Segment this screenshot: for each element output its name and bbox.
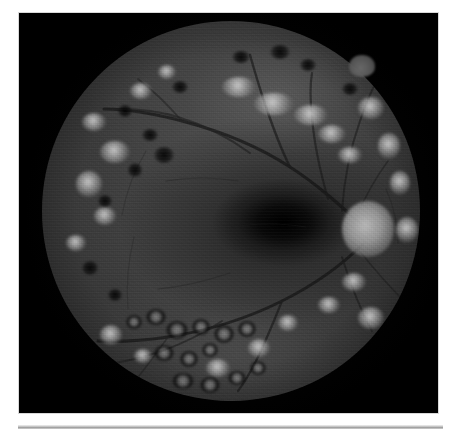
laser-scar xyxy=(154,345,174,361)
laser-scar xyxy=(250,361,266,375)
laser-scar xyxy=(126,315,142,329)
fundus-photograph xyxy=(19,13,438,413)
laser-scar xyxy=(238,321,256,337)
laser-scar xyxy=(146,309,166,325)
laser-scar xyxy=(166,321,188,339)
laser-scar xyxy=(200,377,220,393)
laser-scar xyxy=(172,373,194,389)
fundus-circle-wrapper xyxy=(19,13,438,413)
figure-page xyxy=(0,0,459,435)
laser-scar xyxy=(214,325,234,343)
laser-scar xyxy=(202,343,218,357)
figure-caption xyxy=(0,0,1,1)
laser-scar xyxy=(228,371,246,385)
laser-scar xyxy=(180,351,198,367)
laser-scar-layer xyxy=(42,21,420,401)
bottom-horizontal-rule xyxy=(18,425,443,429)
fundus-retina-disc xyxy=(42,21,420,401)
laser-scar xyxy=(192,319,210,335)
fundus-rim-protrusion xyxy=(349,55,375,77)
